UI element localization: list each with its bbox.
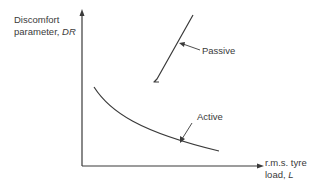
- y-axis-label-line1: Discomfort: [14, 14, 76, 26]
- x-axis-arrowhead-icon: [257, 164, 264, 169]
- y-axis-label-prefix: parameter,: [14, 26, 62, 37]
- y-axis-symbol: DR: [62, 26, 76, 37]
- passive-leader-arrowhead-icon: [179, 42, 185, 47]
- discomfort-vs-tyre-load-diagram: Discomfort parameter, DR r.m.s. tyre loa…: [0, 0, 320, 188]
- y-axis-arrowhead-icon: [80, 9, 85, 16]
- passive-curve: [154, 15, 193, 82]
- x-axis-label: r.m.s. tyre load, L: [265, 157, 307, 180]
- passive-curve-label: Passive: [202, 45, 235, 57]
- active-leader-line: [182, 123, 192, 139]
- y-axis-label-line2: parameter, DR: [14, 26, 76, 38]
- x-axis-label-line2: load, L: [265, 169, 307, 181]
- x-axis-label-prefix: load,: [265, 169, 288, 180]
- x-axis-symbol: L: [288, 169, 293, 180]
- passive-leader-line: [183, 44, 200, 50]
- y-axis-label: Discomfort parameter, DR: [14, 14, 76, 37]
- active-curve-label: Active: [197, 111, 223, 123]
- x-axis-label-line1: r.m.s. tyre: [265, 157, 307, 169]
